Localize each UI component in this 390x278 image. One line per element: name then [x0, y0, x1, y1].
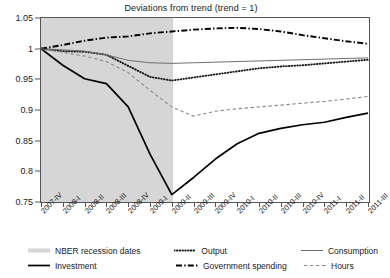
legend-swatch-icon — [304, 260, 326, 271]
legend-label: Investment — [55, 261, 97, 271]
plot-area — [40, 17, 370, 203]
legend-item-hours[interactable]: Hours — [304, 258, 354, 273]
chart-legend: NBER recession datesOutputConsumptionInv… — [28, 243, 378, 275]
legend-swatch-icon — [28, 245, 50, 256]
y-tick-label: 0.95 — [15, 74, 33, 84]
legend-row: NBER recession datesOutputConsumption — [28, 243, 378, 258]
legend-row: InvestmentGovernment spendingHours — [28, 258, 378, 273]
legend-item-investment[interactable]: Investment — [28, 258, 176, 273]
legend-item-government-spending[interactable]: Government spending — [176, 258, 304, 273]
legend-item-consumption[interactable]: Consumption — [301, 243, 378, 258]
legend-swatch-icon — [301, 245, 323, 256]
series-line-consumption — [41, 49, 368, 64]
y-tick-label: 1 — [28, 44, 33, 54]
series-line-government-spending — [41, 28, 368, 49]
series-lines — [41, 18, 369, 202]
chart-title: Deviations from trend (trend = 1) — [0, 3, 382, 13]
y-tick-label: 1.05 — [15, 13, 33, 23]
legend-item-nber-recession-dates[interactable]: NBER recession dates — [28, 243, 174, 258]
x-axis: 2007-IV2008-I2008-II2008-III2008-IV2009-… — [0, 203, 382, 239]
y-tick-label: 0.9 — [20, 105, 33, 115]
legend-label: NBER recession dates — [55, 246, 141, 256]
legend-swatch-icon — [28, 260, 50, 271]
legend-item-output[interactable]: Output — [174, 243, 301, 258]
y-tick-label: 0.8 — [20, 166, 33, 176]
legend-label: Hours — [331, 261, 354, 271]
legend-label: Consumption — [328, 246, 378, 256]
legend-swatch-icon — [176, 260, 198, 271]
legend-label: Government spending — [203, 261, 287, 271]
series-line-output — [41, 49, 368, 81]
y-axis: 0.750.80.850.90.9511.05 — [0, 0, 40, 220]
series-line-investment — [41, 49, 368, 195]
legend-label: Output — [201, 246, 227, 256]
legend-swatch-icon — [174, 245, 196, 256]
y-tick-label: 0.85 — [15, 136, 33, 146]
